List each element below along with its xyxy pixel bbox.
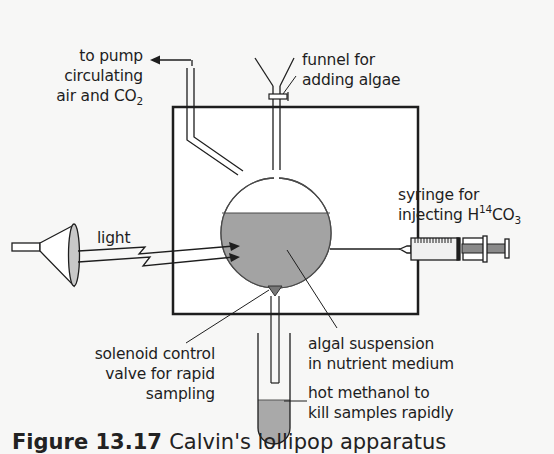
valve-label: solenoid control valve for rapid samplin…: [68, 344, 215, 404]
figure-caption: Figure 13.17 Calvin's lollipop apparatus: [12, 430, 446, 454]
syringe-label: syringe for injecting H14CO3: [398, 185, 521, 225]
lamp-icon: [12, 224, 80, 286]
methanol-label: hot methanol to kill samples rapidly: [308, 383, 454, 423]
funnel-label: funnel for adding algae: [302, 50, 400, 90]
stopcock-icon: [269, 92, 288, 101]
light-label: light: [97, 228, 130, 248]
pump-arrow-icon: [150, 56, 160, 65]
pump-label: to pump circulating air and CO2: [44, 46, 143, 106]
collection-tube: [258, 333, 290, 444]
suspension-label: algal suspension in nutrient medium: [308, 334, 454, 374]
